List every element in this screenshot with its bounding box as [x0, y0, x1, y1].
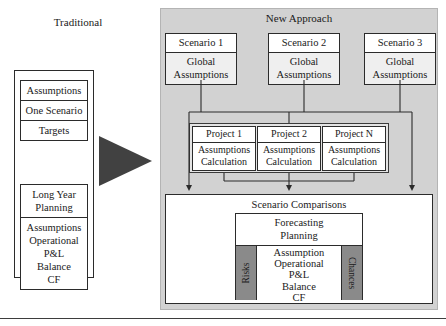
forecasting-title-line2: Planning [236, 229, 362, 242]
forecast-statement-pl: P&L [257, 269, 341, 280]
scenario-1-body-line1: Global [166, 55, 236, 68]
project-3-body-line2: Calculation [323, 156, 385, 168]
scenario-3-body-line1: Global [365, 55, 435, 68]
risks-label: Risks [241, 262, 251, 283]
project-3-body: Assumptions Calculation [323, 143, 385, 170]
traditional-statement-pl: P&L [22, 247, 86, 260]
risks-column: Risks [236, 246, 257, 300]
project-1-body: Assumptions Calculation [193, 143, 255, 170]
forecasting-planning-block: Forecasting Planning Risks Assumption Op… [235, 213, 363, 300]
scenario-box-2: Scenario 2 Global Assumptions [268, 33, 340, 85]
forecast-statement-assumption: Assumption [257, 247, 341, 258]
project-1-body-line1: Assumptions [193, 144, 255, 156]
project-3-title: Project N [323, 127, 385, 143]
scenario-box-1: Scenario 1 Global Assumptions [165, 33, 237, 85]
traditional-cell-targets: Targets [21, 121, 87, 140]
scenario-box-3: Scenario 3 Global Assumptions [364, 33, 436, 85]
traditional-statement-operational: Operational [22, 234, 86, 247]
project-2-body-line2: Calculation [258, 156, 320, 168]
scenario-1-body-line2: Assumptions [166, 68, 236, 81]
traditional-statement-cf: CF [22, 273, 86, 286]
project-box-3: Project N Assumptions Calculation [322, 126, 386, 171]
forecast-statement-cf: CF [257, 292, 341, 303]
traditional-inputs-group: Assumptions One Scenario Targets [20, 80, 88, 141]
traditional-long-year-line2: Planning [22, 201, 86, 214]
scenario-2-title: Scenario 2 [269, 34, 339, 53]
scenario-2-body-line2: Assumptions [269, 68, 339, 81]
traditional-outer-box: Assumptions One Scenario Targets Long Ye… [14, 70, 94, 278]
project-1-title: Project 1 [193, 127, 255, 143]
chances-column: Chances [341, 246, 362, 300]
scenario-2-body: Global Assumptions [269, 53, 339, 84]
traditional-cell-assumptions: Assumptions [21, 81, 87, 101]
forecast-statement-operational: Operational [257, 258, 341, 269]
project-1-body-line2: Calculation [193, 156, 255, 168]
project-box-1: Project 1 Assumptions Calculation [192, 126, 256, 171]
scenario-3-body: Global Assumptions [365, 53, 435, 84]
traditional-statement-balance: Balance [22, 260, 86, 273]
traditional-cell-long-year-planning: Long Year Planning [21, 185, 87, 218]
traditional-statement-assumptions: Assumptions [22, 221, 86, 234]
project-2-body: Assumptions Calculation [258, 143, 320, 170]
scenario-comparisons-label: Scenario Comparisons [165, 198, 433, 211]
forecast-statement-balance: Balance [257, 281, 341, 292]
traditional-cell-one-scenario: One Scenario [21, 101, 87, 121]
scenario-3-body-line2: Assumptions [365, 68, 435, 81]
traditional-title: Traditional [18, 16, 138, 29]
project-2-body-line1: Assumptions [258, 144, 320, 156]
forecasting-planning-title: Forecasting Planning [236, 214, 362, 246]
forecasting-columns: Risks Assumption Operational P&L Balance… [236, 246, 362, 300]
chances-label: Chances [347, 257, 357, 289]
scenario-3-title: Scenario 3 [365, 34, 435, 53]
scenario-2-body-line1: Global [269, 55, 339, 68]
scenario-1-body: Global Assumptions [166, 53, 236, 84]
project-3-body-line1: Assumptions [323, 144, 385, 156]
traditional-cell-statements: Assumptions Operational P&L Balance CF [21, 218, 87, 289]
forecasting-title-line1: Forecasting [236, 216, 362, 229]
new-approach-title: New Approach [160, 12, 438, 25]
transition-arrow-icon [99, 136, 152, 186]
traditional-planning-group: Long Year Planning Assumptions Operation… [20, 184, 88, 290]
project-2-title: Project 2 [258, 127, 320, 143]
project-box-2: Project 2 Assumptions Calculation [257, 126, 321, 171]
traditional-long-year-line1: Long Year [22, 188, 86, 201]
forecast-statements: Assumption Operational P&L Balance CF [257, 246, 341, 300]
bottom-divider [0, 318, 446, 319]
scenario-1-title: Scenario 1 [166, 34, 236, 53]
